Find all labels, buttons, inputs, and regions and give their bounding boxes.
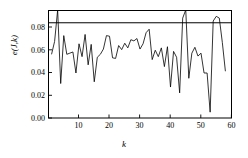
x-ticklabel-4: 50 [197, 121, 205, 130]
y-ticklabel-4: 0.08 [31, 23, 45, 32]
y-ticklabel-0: 0.00 [31, 114, 45, 123]
x-ticklabel-1: 20 [105, 121, 113, 130]
figure: 0.00 0.02 0.04 0.06 0.08 10 20 30 40 50 … [0, 0, 248, 158]
chart-svg: 0.00 0.02 0.04 0.06 0.08 10 20 30 40 50 … [0, 0, 248, 158]
y-axis-ticklabels: 0.00 0.02 0.04 0.06 0.08 [31, 23, 45, 123]
x-axis-label: k [0, 139, 248, 149]
y-ticklabel-3: 0.06 [31, 46, 45, 55]
x-axis-label-text: k [122, 139, 126, 149]
y-axis-label: e(J,k) [9, 15, 19, 75]
plot-frame [49, 11, 232, 119]
x-ticklabel-5: 60 [227, 121, 235, 130]
y-ticklabel-2: 0.04 [31, 68, 45, 77]
x-ticklabel-2: 30 [136, 121, 144, 130]
x-ticklabel-3: 40 [166, 121, 174, 130]
y-axis-label-text: e(J,k) [9, 35, 19, 55]
x-axis-ticklabels: 10 20 30 40 50 60 [75, 121, 236, 130]
y-ticklabel-1: 0.02 [31, 91, 45, 100]
x-ticklabel-0: 10 [75, 121, 83, 130]
